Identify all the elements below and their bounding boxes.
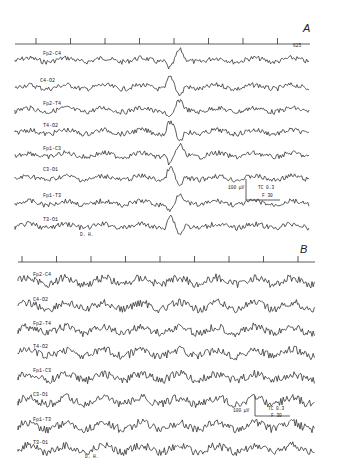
channel-label: T4-O2 <box>33 344 48 350</box>
eeg-traces <box>0 0 337 469</box>
channel-label: T3-O1 <box>43 217 58 223</box>
eeg-figure: A 625 B Fp2-C4 C4-O2 Fp2-T4 T4-O2 Fp1-C3… <box>0 0 337 469</box>
channel-label: T3-O1 <box>33 440 48 446</box>
channel-label: Fp1-C3 <box>33 368 51 374</box>
subject-label: D. H. <box>80 232 94 237</box>
calibration-amplitude: 100 µV <box>233 408 249 413</box>
calibration-tc: TC 0.3 <box>258 185 274 190</box>
channel-label: T4-O2 <box>43 123 58 129</box>
channel-label: C3-O1 <box>33 392 48 398</box>
channel-label: C3-O1 <box>43 167 58 173</box>
channel-label: Fp2-T4 <box>43 101 61 107</box>
channel-label: Fp1-T3 <box>43 193 61 199</box>
panel-label-b: B <box>300 243 307 255</box>
calibration-tc: TC 0.3 <box>268 406 284 411</box>
time-marker: 625 <box>293 43 301 48</box>
channel-label: C4-O2 <box>33 297 48 303</box>
channel-label: Fp2-C4 <box>43 51 61 57</box>
calibration-filter: F 30 <box>271 413 282 418</box>
channel-label: Fp1-C3 <box>43 146 61 152</box>
channel-label: Fp1-T3 <box>33 417 51 423</box>
channel-label: C4-O2 <box>40 78 55 84</box>
calibration-filter: F 30 <box>262 193 273 198</box>
channel-label: Fp2-C4 <box>33 272 51 278</box>
subject-label: D. H. <box>85 454 99 459</box>
channel-label: Fp2-T4 <box>33 321 51 327</box>
calibration-amplitude: 100 µV <box>228 185 244 190</box>
panel-label-a: A <box>303 22 310 34</box>
